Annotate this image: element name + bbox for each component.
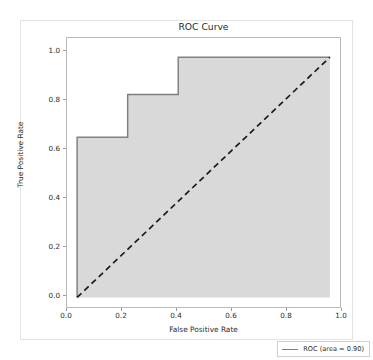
ytick-label-0.2: 0.2 bbox=[34, 242, 60, 251]
ytick-label-0.0: 0.0 bbox=[34, 291, 60, 300]
xtick-label-0.6: 0.6 bbox=[216, 311, 246, 320]
xtick-label-0.0: 0.0 bbox=[51, 311, 81, 320]
ytick-label-0.4: 0.4 bbox=[34, 193, 60, 202]
xtick-label-0.2: 0.2 bbox=[106, 311, 136, 320]
ytick-mark-0.8 bbox=[63, 99, 66, 100]
ytick-mark-0.6 bbox=[63, 148, 66, 149]
x-axis-label: False Positive Rate bbox=[66, 325, 341, 334]
plot-canvas bbox=[67, 38, 340, 307]
ytick-mark-1.0 bbox=[63, 50, 66, 51]
ytick-label-1.0: 1.0 bbox=[34, 46, 60, 55]
legend-line-swatch bbox=[282, 349, 298, 350]
ytick-mark-0.2 bbox=[63, 246, 66, 247]
ytick-mark-0.0 bbox=[63, 295, 66, 296]
xtick-label-1.0: 1.0 bbox=[326, 311, 356, 320]
y-axis-label: True Positive Rate bbox=[16, 75, 25, 235]
ytick-label-0.6: 0.6 bbox=[34, 144, 60, 153]
page-title: ROC Curve bbox=[66, 20, 341, 34]
roc-curve-figure: ROC Curve 1.0 0.8 0.6 0.4 0.2 0.0 0.0 0.… bbox=[0, 0, 373, 360]
legend: ROC (area = 0.90) bbox=[277, 341, 370, 357]
legend-item-label: ROC (area = 0.90) bbox=[303, 345, 364, 353]
xtick-label-0.4: 0.4 bbox=[161, 311, 191, 320]
ytick-mark-0.4 bbox=[63, 197, 66, 198]
series-group bbox=[77, 57, 330, 297]
xtick-label-0.8: 0.8 bbox=[271, 311, 301, 320]
plot-area bbox=[66, 37, 341, 308]
ytick-label-0.8: 0.8 bbox=[34, 95, 60, 104]
